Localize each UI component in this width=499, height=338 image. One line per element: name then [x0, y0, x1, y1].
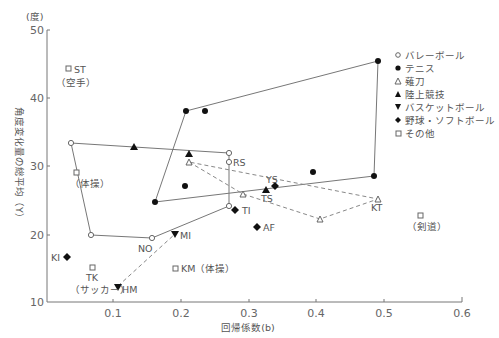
label-TS: TS	[260, 193, 273, 204]
open-circle-marker	[226, 159, 231, 164]
legend-volleyball: バレーボール	[405, 50, 465, 61]
legend-inverted-triangle-icon	[395, 104, 401, 110]
filled-circle-marker	[202, 108, 208, 114]
open-square-marker	[74, 170, 79, 175]
filled-circle-marker	[183, 108, 189, 114]
open-square-marker	[90, 265, 95, 270]
open-square-marker	[418, 213, 423, 218]
label-YS: YS	[265, 174, 278, 185]
label-ST: ST	[74, 64, 86, 75]
diamond-marker	[253, 223, 261, 231]
filled-circle-marker	[371, 173, 377, 179]
label-taiso: （体操）	[70, 178, 110, 189]
open-circle-marker	[226, 203, 231, 208]
legend-filled-triangle-icon	[395, 91, 401, 97]
legend-diamond-icon	[395, 117, 401, 123]
legend: バレーボール テニス 薙刀 陸上競技 バスケットボール 野球・ソフトボール その…	[395, 50, 495, 139]
legend-open-square-icon	[396, 131, 401, 136]
filled-circle-marker	[375, 58, 381, 64]
open-square-marker	[173, 266, 178, 271]
legend-baseball: 野球・ソフトボール	[405, 115, 495, 126]
label-karate: （空手）	[56, 77, 96, 88]
open-circle-marker	[68, 140, 73, 145]
diamond-marker	[63, 253, 71, 261]
label-NO: NO	[138, 243, 153, 254]
label-soccer: （サッカー）	[70, 284, 130, 295]
label-TK: TK	[85, 272, 99, 283]
open-square-marker	[66, 66, 71, 71]
legend-open-circle-icon	[396, 53, 401, 58]
open-circle-marker	[88, 232, 93, 237]
legend-track-field: 陸上競技	[405, 89, 445, 100]
y-tick-10: 10	[30, 296, 44, 309]
open-triangle-marker	[317, 216, 323, 222]
label-KT: KT	[371, 202, 382, 213]
x-axis	[47, 297, 462, 302]
x-tick-0.2: 0.2	[172, 307, 190, 320]
x-tick-0.3: 0.3	[240, 307, 258, 320]
label-KI: KI	[51, 252, 60, 263]
legend-open-triangle-icon	[395, 78, 401, 84]
label-kendo: （剣道）	[407, 221, 447, 232]
series-naginata	[186, 159, 381, 222]
x-tick-0.1: 0.1	[104, 307, 122, 320]
label-MI: MI	[180, 230, 191, 241]
legend-other: その他	[405, 128, 435, 139]
label-AF: AF	[263, 222, 275, 233]
filled-circle-marker	[152, 199, 158, 205]
x-tick-0.5: 0.5	[375, 307, 393, 320]
y-axis	[47, 30, 50, 302]
legend-tennis: テニス	[405, 63, 435, 74]
label-RS: RS	[233, 157, 246, 168]
y-tick-30: 30	[30, 160, 44, 173]
label-TI: TI	[241, 205, 251, 216]
y-tick-40: 40	[30, 92, 44, 105]
series-baseball	[63, 182, 279, 261]
volleyball-polygon	[71, 143, 229, 238]
series-basketball	[114, 231, 179, 291]
legend-naginata: 薙刀	[405, 76, 425, 87]
label-HM: HM	[122, 284, 137, 295]
scatter-chart: 50 40 30 20 10 (度) 0.1 0.2 0.3 0.4 0.5 0…	[0, 0, 499, 338]
y-unit: (度)	[26, 11, 43, 22]
legend-basketball: バスケットボール	[405, 102, 485, 113]
open-circle-marker	[226, 150, 231, 155]
x-tick-0.6: 0.6	[453, 307, 471, 320]
basketball-line	[118, 234, 175, 286]
legend-filled-circle-icon	[395, 65, 400, 70]
filled-circle-marker	[182, 183, 188, 189]
label-KM: KM（体操）	[181, 263, 235, 274]
y-tick-50: 50	[30, 24, 44, 37]
y-tick-20: 20	[30, 229, 44, 242]
filled-circle-marker	[310, 169, 316, 175]
y-axis-title: 角度変化量の総平均（Y）	[14, 107, 25, 223]
series-other	[66, 66, 423, 271]
series-volleyball	[68, 140, 231, 240]
open-circle-marker	[149, 235, 154, 240]
x-tick-0.4: 0.4	[307, 307, 325, 320]
x-axis-title: 回帰係数(b)	[221, 322, 274, 333]
series-track-field	[130, 143, 270, 193]
diamond-marker	[231, 206, 239, 214]
